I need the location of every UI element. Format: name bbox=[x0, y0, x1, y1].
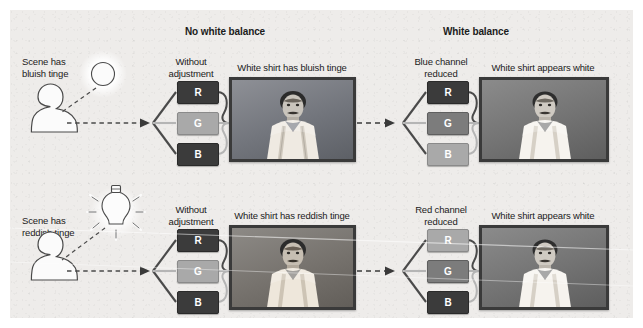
bottom-right-splitter bbox=[403, 240, 426, 302]
person-icon-bottom bbox=[31, 232, 77, 280]
bottom-right-channel-b[interactable]: B bbox=[427, 291, 469, 314]
bottom-right-photo-caption: White shirt appears white bbox=[477, 210, 609, 222]
bottom-left-splitter bbox=[153, 240, 176, 302]
light-ray-bottom bbox=[62, 228, 105, 260]
bottom-right-adjust-caption: Red channel reduced bbox=[413, 204, 469, 227]
bottom-left-photo-caption: White shirt has reddish tinge bbox=[226, 210, 358, 222]
lightbulb-icon bbox=[87, 186, 145, 241]
bottom-right-portrait bbox=[482, 228, 609, 310]
bottom-left-portrait bbox=[232, 228, 356, 310]
bottom-left-adjust-caption: Without adjustment bbox=[163, 204, 219, 227]
panel-link-arrowhead-bottom bbox=[385, 267, 395, 276]
bottom-left-photo bbox=[229, 225, 356, 310]
bottom-right-channel-r[interactable]: R bbox=[427, 229, 469, 252]
bottom-right-channel-g[interactable]: G bbox=[427, 260, 469, 283]
bottom-left-channel-g[interactable]: G bbox=[177, 260, 219, 283]
bottom-right-photo bbox=[479, 225, 609, 310]
scene-ray-arrow-bottom bbox=[140, 267, 150, 276]
bottom-left-channel-r[interactable]: R bbox=[177, 229, 219, 252]
bottom-left-channel-b[interactable]: B bbox=[177, 291, 219, 314]
white-balance-diagram: No white balance White balance Scene has… bbox=[0, 0, 643, 328]
